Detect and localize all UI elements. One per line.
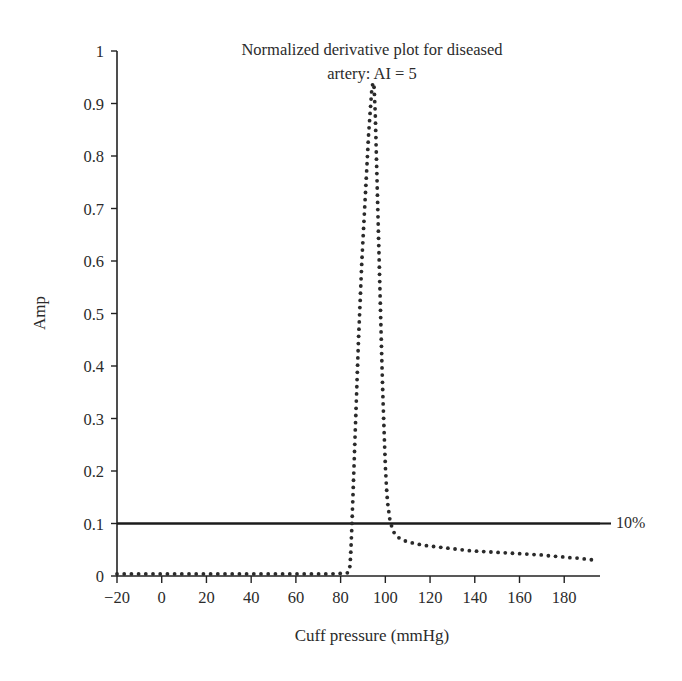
series-dot xyxy=(384,467,388,471)
series-dot xyxy=(374,143,378,147)
series-dot xyxy=(380,366,384,370)
series-dot xyxy=(353,442,357,446)
series-dot xyxy=(381,380,385,384)
series-dot xyxy=(354,406,358,410)
x-tick-label: 140 xyxy=(462,588,487,607)
series-dot xyxy=(390,524,394,528)
series-dot xyxy=(589,558,593,562)
series-dot xyxy=(385,488,389,492)
series-dot xyxy=(354,421,358,425)
series-dot xyxy=(360,263,364,267)
series-dot xyxy=(377,258,381,262)
y-tick-label: 0.9 xyxy=(83,95,104,114)
series-dot xyxy=(345,571,349,575)
y-tick-label: 0.5 xyxy=(83,305,104,324)
series-dot xyxy=(374,129,378,133)
y-tick-label: 0.1 xyxy=(83,515,104,534)
series-dot xyxy=(368,112,372,116)
series-dot xyxy=(381,409,385,413)
series-dot xyxy=(361,234,365,238)
series-dot xyxy=(503,551,507,555)
series-dot xyxy=(382,424,386,428)
series-dot xyxy=(383,445,387,449)
series-dot xyxy=(367,133,371,137)
series-dot xyxy=(374,136,378,140)
series-dot xyxy=(373,93,377,97)
series-dot xyxy=(373,107,377,111)
series-dot xyxy=(386,503,390,507)
series-dot xyxy=(352,464,356,468)
series-dot xyxy=(354,414,358,418)
series-dot xyxy=(360,255,364,259)
series-dot xyxy=(561,555,565,559)
series-dot xyxy=(302,572,306,576)
series-dot xyxy=(359,291,363,295)
series-dot xyxy=(518,552,522,556)
series-dot xyxy=(209,572,213,576)
series-dot xyxy=(361,241,365,245)
series-dot xyxy=(370,90,374,94)
series-dot xyxy=(375,186,379,190)
series-dot xyxy=(216,572,220,576)
series-dot xyxy=(356,342,360,346)
series-dot xyxy=(358,298,362,302)
series-dot xyxy=(348,558,352,562)
y-tick-label: 0.3 xyxy=(83,410,104,429)
x-axis-ticks: −20020406080100120140160180 xyxy=(104,576,577,607)
series-dot xyxy=(194,572,198,576)
series-dot xyxy=(363,198,367,202)
series-dot xyxy=(369,97,373,101)
series-dot xyxy=(381,402,385,406)
series-dot xyxy=(361,248,365,252)
series-dot xyxy=(364,191,368,195)
series-dot xyxy=(377,251,381,255)
series-dot xyxy=(324,572,328,576)
series-dot xyxy=(582,557,586,561)
series-dot xyxy=(381,388,385,392)
series-dot xyxy=(180,572,184,576)
series-dot xyxy=(266,572,270,576)
series-dot xyxy=(410,541,414,545)
series-dot xyxy=(475,549,479,553)
series-dot xyxy=(467,549,471,553)
series-dot xyxy=(259,572,263,576)
series-dot xyxy=(350,514,354,518)
series-dot xyxy=(532,553,536,557)
series-dot xyxy=(356,363,360,367)
series-dot xyxy=(245,572,249,576)
series-dot xyxy=(383,460,387,464)
series-dot xyxy=(380,352,384,356)
series-dot xyxy=(363,205,367,209)
series-dot xyxy=(365,162,369,166)
series-dot xyxy=(230,572,234,576)
series-dot xyxy=(338,572,342,576)
series-dot xyxy=(355,392,359,396)
series-dot xyxy=(377,265,381,269)
chart-title-line-2: artery: AI = 5 xyxy=(327,64,417,83)
threshold-label: 10% xyxy=(616,514,645,531)
y-axis-title: Amp xyxy=(30,296,49,330)
series-dot xyxy=(362,227,366,231)
series-dot xyxy=(446,546,450,550)
series-dot xyxy=(238,572,242,576)
series-dot xyxy=(202,572,206,576)
series-dot xyxy=(368,119,372,123)
series-dot xyxy=(376,215,380,219)
x-tick-label: 120 xyxy=(418,588,443,607)
x-tick-label: −20 xyxy=(104,588,130,607)
series-dot xyxy=(546,554,550,558)
y-tick-label: 0.4 xyxy=(83,357,104,376)
series-dot xyxy=(380,359,384,363)
series-dot xyxy=(460,548,464,552)
series-dot xyxy=(331,572,335,576)
series-dot xyxy=(144,572,148,576)
x-tick-label: 20 xyxy=(198,588,215,607)
series-dot xyxy=(366,140,370,144)
series-dot xyxy=(166,572,170,576)
series-dot xyxy=(366,147,370,151)
series-dot xyxy=(295,572,299,576)
series-dot xyxy=(357,320,361,324)
series-dot xyxy=(352,478,356,482)
series-dot xyxy=(360,270,364,274)
y-tick-label: 0.8 xyxy=(83,147,104,166)
